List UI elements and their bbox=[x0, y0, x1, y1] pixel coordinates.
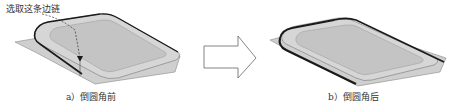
transition-arrow bbox=[200, 0, 260, 112]
panel-before-fillet: 选取这条边链 a）倒圆角前 bbox=[0, 0, 185, 112]
panel-after-fillet: b）倒圆角后 bbox=[268, 0, 450, 112]
caption-before: a）倒圆角前 bbox=[66, 90, 116, 103]
caption-after: b）倒圆角后 bbox=[328, 90, 379, 103]
right-arrow-icon bbox=[200, 0, 260, 112]
callout-label: 选取这条边链 bbox=[6, 2, 60, 15]
